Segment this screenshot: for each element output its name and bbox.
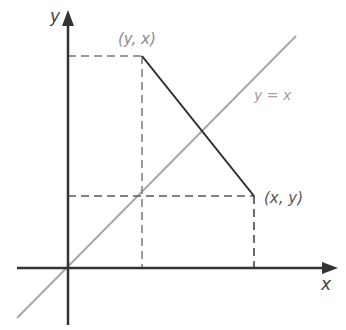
point-label-yx: (y, x): [118, 30, 156, 48]
reflection-diagram: y x (y, x) (x, y) y = x: [0, 0, 346, 330]
y-axis-arrow-icon: [62, 10, 74, 26]
x-axis-label: x: [320, 274, 332, 294]
diagonal-line-y-equals-x: [17, 36, 296, 318]
diagonal-label: y = x: [253, 87, 292, 103]
x-axis-arrow-icon: [322, 262, 338, 274]
point-label-xy: (x, y): [264, 189, 303, 207]
y-axis-label: y: [49, 6, 61, 26]
